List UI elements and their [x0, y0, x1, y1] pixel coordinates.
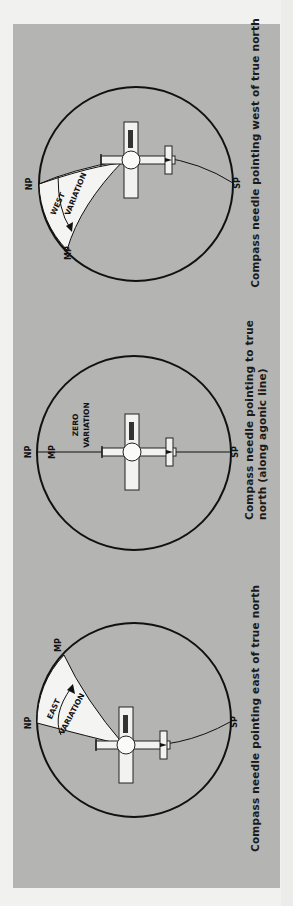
svg-text:SP: SP — [230, 716, 239, 728]
svg-text:MP: MP — [54, 638, 63, 652]
caption-west: Compass needle pointing west of true nor… — [249, 13, 262, 293]
svg-text:ZERO: ZERO — [71, 414, 80, 437]
east-variation-panel: NP MP SP EAST VARIATION — [24, 623, 239, 817]
zero-variation-panel: NP MP SP ZERO VARIATION — [24, 356, 240, 550]
svg-text:MP: MP — [64, 246, 73, 260]
svg-text:VARIATION: VARIATION — [82, 402, 91, 447]
svg-text:NP: NP — [24, 717, 33, 730]
caption-east: Compass needle pointing east of true nor… — [249, 602, 262, 852]
svg-text:MP: MP — [48, 445, 57, 459]
svg-text:NP: NP — [25, 178, 34, 191]
svg-text:NP: NP — [24, 446, 33, 459]
svg-text:SP: SP — [233, 177, 242, 189]
svg-text:SP: SP — [231, 446, 240, 458]
west-variation-panel: NP MP SP WEST VARIATION — [25, 87, 242, 281]
caption-zero: Compass needle pointing to true north (a… — [243, 380, 269, 520]
